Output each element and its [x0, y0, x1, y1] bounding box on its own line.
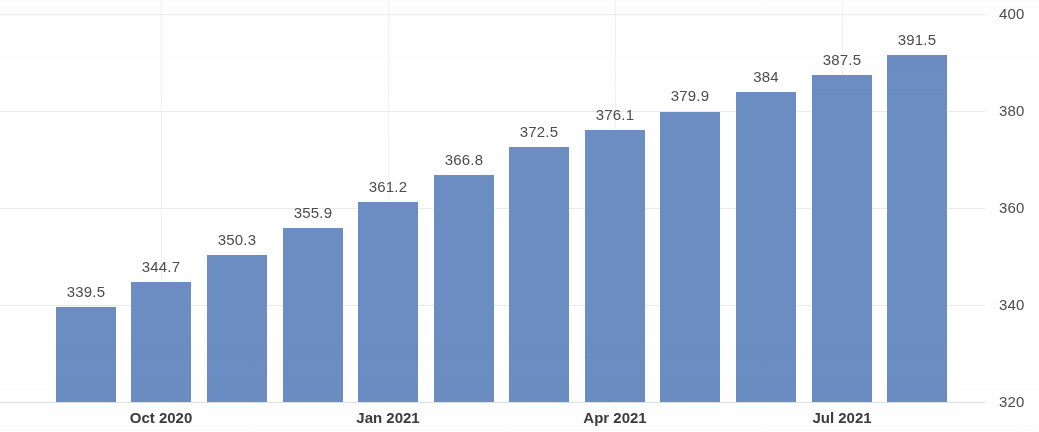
bar[interactable]: [434, 175, 494, 402]
x-axis-tick-label: Oct 2020: [130, 409, 193, 426]
x-axis: Oct 2020Jan 2021Apr 2021Jul 2021: [0, 403, 985, 432]
bar[interactable]: [660, 112, 720, 403]
bar[interactable]: [509, 147, 569, 402]
bar-value-label: 344.7: [121, 258, 201, 275]
bar[interactable]: [207, 255, 267, 402]
bar[interactable]: [887, 55, 947, 402]
bar-chart: 339.5344.7350.3355.9361.2366.8372.5376.1…: [0, 0, 1039, 432]
y-axis-tick-label: 340: [999, 296, 1025, 313]
bar[interactable]: [812, 75, 872, 402]
bar-value-label: 339.5: [46, 283, 126, 300]
bar-value-label: 391.5: [877, 31, 957, 48]
x-axis-tick-label: Jul 2021: [812, 409, 871, 426]
gridline-y-400: [0, 14, 985, 15]
bar-value-label: 379.9: [650, 87, 730, 104]
bar-value-label: 350.3: [197, 231, 277, 248]
bar[interactable]: [736, 92, 796, 402]
bar[interactable]: [585, 130, 645, 402]
y-axis-tick-label: 380: [999, 102, 1025, 119]
bar-value-label: 376.1: [575, 106, 655, 123]
y-axis-tick-label: 320: [999, 393, 1025, 410]
bar-value-label: 387.5: [802, 51, 882, 68]
bar[interactable]: [131, 282, 191, 402]
bar-value-label: 366.8: [424, 151, 504, 168]
bar-value-label: 384: [726, 68, 806, 85]
y-axis-tick-label: 400: [999, 5, 1025, 22]
bar[interactable]: [358, 202, 418, 402]
bar-value-label: 361.2: [348, 178, 428, 195]
x-axis-tick-label: Jan 2021: [356, 409, 419, 426]
y-axis: 320340360380400: [985, 0, 1039, 432]
x-axis-tick-label: Apr 2021: [583, 409, 646, 426]
plot-area: 339.5344.7350.3355.9361.2366.8372.5376.1…: [0, 0, 985, 403]
bar-value-label: 355.9: [273, 204, 353, 221]
bar[interactable]: [283, 228, 343, 402]
y-axis-tick-label: 360: [999, 199, 1025, 216]
bar-value-label: 372.5: [499, 123, 579, 140]
bar[interactable]: [56, 307, 116, 402]
